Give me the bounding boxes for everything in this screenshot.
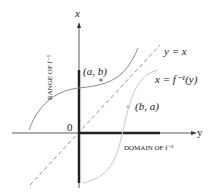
diagram-graphics <box>0 0 213 192</box>
range-label: RANGE OF f⁻¹ <box>46 55 54 100</box>
point-ba <box>126 105 130 109</box>
point-ab <box>99 78 103 82</box>
curve-f-inverse <box>83 70 158 183</box>
vertical-axis-label: x <box>75 8 80 19</box>
inverse-curve-label: x = f⁻¹(y) <box>155 74 197 85</box>
inverse-function-diagram: x y 0 y = x x = f⁻¹(y) (a, b) (b, a) DOM… <box>0 0 213 192</box>
point-ab-label: (a, b) <box>83 66 107 77</box>
domain-label: DOMAIN OF f⁻¹ <box>124 145 174 152</box>
vertical-arrow-icon <box>77 22 81 28</box>
diagonal-label: y = x <box>164 46 187 57</box>
point-ba-label: (b, a) <box>135 101 159 112</box>
horizontal-axis-label: y <box>197 127 203 138</box>
origin-label: 0 <box>67 122 73 133</box>
